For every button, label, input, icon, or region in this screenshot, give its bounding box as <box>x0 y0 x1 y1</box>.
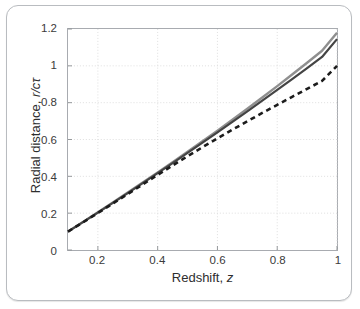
x-tick-label: 0.6 <box>210 254 226 266</box>
plot-area <box>67 28 338 251</box>
y-tick-label: 0.2 <box>41 208 57 220</box>
x-tick-label: 0.8 <box>270 254 286 266</box>
data-series-layer <box>68 29 337 250</box>
x-tick-label: 0.4 <box>149 254 165 266</box>
x-axis-title: Redshift, z <box>67 270 338 285</box>
data-series-gray-solid <box>68 33 337 232</box>
y-axis-title-text: Radial distance, <box>28 97 43 193</box>
data-series-dark-solid <box>68 39 337 231</box>
data-series-black-dashed <box>68 66 337 232</box>
x-tick-label: 0.2 <box>89 254 105 266</box>
y-tick-label: 0.4 <box>41 171 57 183</box>
y-axis-title-symbol: r/cτ <box>28 78 43 97</box>
x-axis-title-text: Redshift, <box>172 270 227 285</box>
x-axis-title-symbol: z <box>227 270 234 285</box>
figure-panel: 1.2 1 0.8 0.6 0.4 0.2 0 0.2 0.4 0.6 0.8 … <box>6 5 352 301</box>
y-tick-label: 0.6 <box>41 134 57 146</box>
x-tick-label: 1 <box>335 254 341 266</box>
y-tick-label: 1 <box>51 59 57 71</box>
y-tick-label: 0.8 <box>41 96 57 108</box>
y-tick-label: 0 <box>51 245 57 257</box>
y-tick-label: 1.2 <box>41 22 57 34</box>
y-axis-title: Radial distance, r/cτ <box>28 16 43 256</box>
